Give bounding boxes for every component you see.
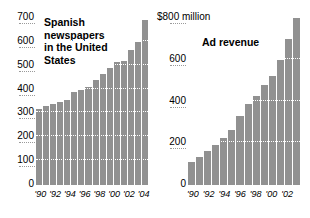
bar [195, 157, 203, 185]
x-tick-label: '96 [77, 188, 92, 202]
bar [260, 85, 268, 185]
y-tick-label: $800 million [157, 12, 277, 22]
bar [113, 62, 120, 185]
y-tick-dots [19, 95, 35, 97]
y-tick-dots [19, 166, 35, 168]
x-tick-label: '94 [216, 188, 232, 202]
x-tick-label: '98 [92, 188, 107, 202]
bar [188, 162, 195, 185]
x-axis-left: '90'92'94'96'98'00'02'04 [33, 188, 151, 202]
x-axis-right: '90'92'94'96'98'00'02 [185, 188, 295, 202]
y-tick-label: 400 [152, 96, 186, 106]
bar [268, 76, 276, 185]
y-tick-label: 400 [0, 84, 34, 94]
bar [120, 61, 127, 185]
bar [106, 68, 113, 185]
y-tick-dots [19, 23, 35, 25]
x-tick-label: '02 [279, 188, 295, 202]
bar [276, 60, 284, 185]
y-tick-label: 300 [0, 107, 34, 117]
x-tick-label: '92 [48, 188, 63, 202]
bar [211, 145, 219, 185]
bar [70, 92, 77, 185]
bar [92, 80, 99, 185]
bar [63, 100, 70, 185]
bar [284, 39, 292, 185]
x-tick-label: '94 [63, 188, 78, 202]
y-tick-label: 200 [0, 131, 34, 141]
bar [49, 104, 56, 185]
bar-series-left [36, 18, 148, 185]
x-tick-label: '00 [264, 188, 280, 202]
bar [77, 90, 84, 185]
bar [219, 138, 227, 185]
y-tick-label: 0 [152, 179, 186, 189]
x-tick-label: '90 [185, 188, 201, 202]
y-tick-dots [170, 107, 186, 109]
plot-area-left [36, 18, 148, 185]
x-tick-label: '98 [248, 188, 264, 202]
bar [227, 130, 235, 185]
chart-panel-spanish-newspapers: Spanish newspapers in the United States … [0, 0, 155, 218]
y-tick-label: 600 [152, 54, 186, 64]
bar [42, 106, 49, 185]
y-tick-dots [170, 23, 186, 25]
y-tick-dots [19, 118, 35, 120]
x-tick-label: '96 [232, 188, 248, 202]
y-tick-label: 700 [0, 12, 34, 22]
bar [99, 74, 106, 185]
y-tick-dots [19, 142, 35, 144]
x-tick-label: '00 [107, 188, 122, 202]
y-tick-dots [170, 148, 186, 150]
bar [292, 18, 300, 185]
plot-area-right [188, 18, 300, 185]
bar [203, 151, 211, 185]
bar [235, 116, 243, 185]
x-tick-label: '02 [122, 188, 137, 202]
y-tick-dots [170, 65, 186, 67]
bar [134, 42, 141, 185]
y-tick-label: 600 [0, 36, 34, 46]
y-tick-dots [19, 71, 35, 73]
y-tick-dots [19, 47, 35, 49]
bar [56, 102, 63, 186]
y-tick-label: 200 [152, 137, 186, 147]
y-tick-label: 0 [0, 179, 34, 189]
dual-bar-chart-figure: Spanish newspapers in the United States … [0, 0, 310, 218]
bar [127, 50, 134, 185]
x-tick-label: '92 [201, 188, 217, 202]
y-tick-label: 100 [0, 155, 34, 165]
x-tick-label: '90 [33, 188, 48, 202]
bar [84, 87, 91, 185]
y-tick-label: 500 [0, 60, 34, 70]
bar [141, 20, 148, 185]
x-tick-label: '04 [136, 188, 151, 202]
bar [244, 104, 252, 185]
chart-panel-ad-revenue: Ad revenue 0200400600$800 million '90'92… [155, 0, 310, 218]
bar-series-right [188, 18, 300, 185]
bar [252, 96, 260, 185]
